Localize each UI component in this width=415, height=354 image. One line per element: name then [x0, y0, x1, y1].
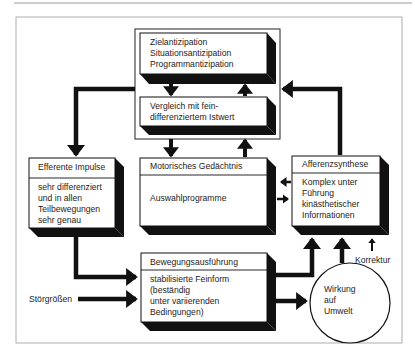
afferent-line-1: Komplex unter: [302, 177, 357, 188]
afferent-title: Afferenzsynthese: [302, 159, 368, 170]
execution-line-3: unter variierenden: [150, 296, 219, 307]
afferent-line-4: Informationen: [302, 210, 355, 221]
effect-line-1: Wirkung: [324, 284, 356, 295]
effect-line-2: auf: [324, 295, 336, 306]
anticipation-line-3: Programmantizipation: [150, 59, 234, 70]
motor-memory-title: Motorisches Gedächtnis: [150, 161, 242, 172]
efferent-line-2: und in allen: [38, 193, 82, 204]
effect-line-3: Umwelt: [324, 306, 353, 317]
execution-line-1: stabilisierte Feinform: [150, 274, 229, 285]
arrow-afferent-to-anticipation: [283, 89, 340, 155]
afferent-line-2: Führung: [302, 188, 334, 199]
execution-title: Bewegungsausführung: [150, 257, 238, 268]
effect-circle: [310, 263, 390, 343]
execution-line-4: Bedingungen): [150, 307, 204, 318]
efferent-title: Efferente Impulse: [38, 162, 105, 173]
correction-label: Korrektur: [355, 255, 390, 266]
anticipation-line-2: Situationsantizipation: [150, 48, 231, 59]
arrow-execution-to-afferent: [276, 239, 312, 275]
comparison-line-1: Vergleich mit fein-: [150, 101, 218, 112]
afferent-line-3: kinästhetischer: [302, 199, 359, 210]
efferent-line-3: Teilbewegungen: [38, 204, 100, 215]
motor-memory-line-1: Auswahlprogramme: [150, 193, 226, 204]
comparison-line-2: differenziertem Istwert: [150, 112, 234, 123]
arrow-efferent-to-execution: [76, 237, 136, 277]
anticipation-line-1: Zielantizipation: [150, 37, 207, 48]
disturbances-label: Störgrößen: [29, 294, 72, 305]
execution-line-2: (beständig: [150, 285, 190, 296]
efferent-line-1: sehr differenziert: [38, 182, 102, 193]
efferent-line-4: sehr genau: [38, 215, 81, 226]
arrow-anticipation-to-efferent: [76, 89, 135, 155]
